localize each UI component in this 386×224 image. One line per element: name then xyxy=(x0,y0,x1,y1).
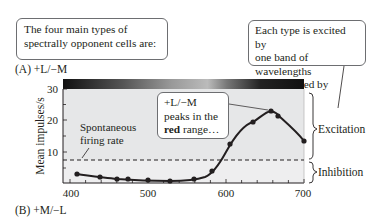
y-tick-10: 10 xyxy=(47,146,59,158)
inhibition-band xyxy=(63,160,304,183)
x-tick-500: 500 xyxy=(140,187,157,199)
description-callout-pointer xyxy=(338,66,344,108)
x-tick-400: 400 xyxy=(63,187,80,199)
inhibition-label: Inhibition xyxy=(318,166,364,178)
excitation-brace xyxy=(309,93,317,159)
peak-callout-line2: peaks in the xyxy=(164,110,222,124)
spectrum-bar xyxy=(63,79,304,89)
excitation-label: Excitation xyxy=(318,123,366,135)
peak-callout-range: range… xyxy=(180,123,219,135)
y-tick-30: 30 xyxy=(47,83,59,95)
inhibition-brace xyxy=(309,162,317,183)
x-tick-700: 700 xyxy=(295,187,312,199)
peak-callout-line1: +L/−M xyxy=(164,96,222,110)
peak-callout-red: red xyxy=(164,123,180,135)
peak-callout: +L/−M peaks in the red range… xyxy=(157,92,229,139)
x-tick-600: 600 xyxy=(218,187,235,199)
spontaneous-label-line2: firing rate xyxy=(80,134,124,146)
spontaneous-label-line1: Spontaneous xyxy=(80,121,136,133)
peak-callout-line3: red range… xyxy=(164,123,222,137)
y-axis-label: Mean impulses/s xyxy=(34,97,47,175)
y-tick-20: 20 xyxy=(47,114,59,126)
